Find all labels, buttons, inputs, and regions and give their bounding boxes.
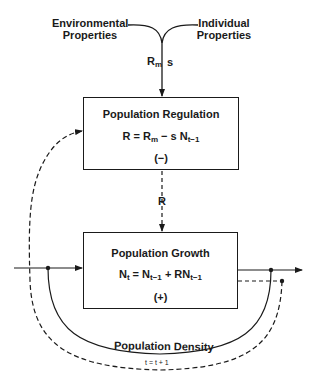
growth-sign: (+): [84, 291, 237, 303]
environmental-line1: Environmental: [52, 17, 128, 29]
regulation-title: Population Regulation: [84, 108, 238, 120]
regulation-equation: R = Rm − s Nt−1: [84, 130, 238, 142]
individual-line2: Properties: [196, 29, 252, 41]
individual-input-line: [162, 25, 198, 43]
s-label: s: [167, 56, 173, 68]
environmental-line2: Properties: [52, 29, 128, 41]
environmental-properties-label: Environmental Properties: [52, 17, 128, 41]
environmental-input-line: [128, 25, 162, 43]
r-connector-label: R: [158, 195, 166, 207]
time-step-label: t = t + 1: [145, 357, 169, 369]
population-regulation-box: Population Regulation R = Rm − s Nt−1 (−…: [83, 97, 239, 170]
rm-label: Rm: [147, 55, 162, 67]
population-density-label: Population Density: [114, 339, 214, 353]
individual-line1: Individual: [196, 17, 252, 29]
individual-properties-label: Individual Properties: [196, 17, 252, 41]
growth-equation: Nt = Nt−1 + RNt−1: [84, 268, 237, 280]
growth-title: Population Growth: [84, 247, 237, 259]
population-growth-box: Population Growth Nt = Nt−1 + RNt−1 (+): [83, 232, 238, 309]
regulation-sign: (−): [84, 152, 238, 164]
